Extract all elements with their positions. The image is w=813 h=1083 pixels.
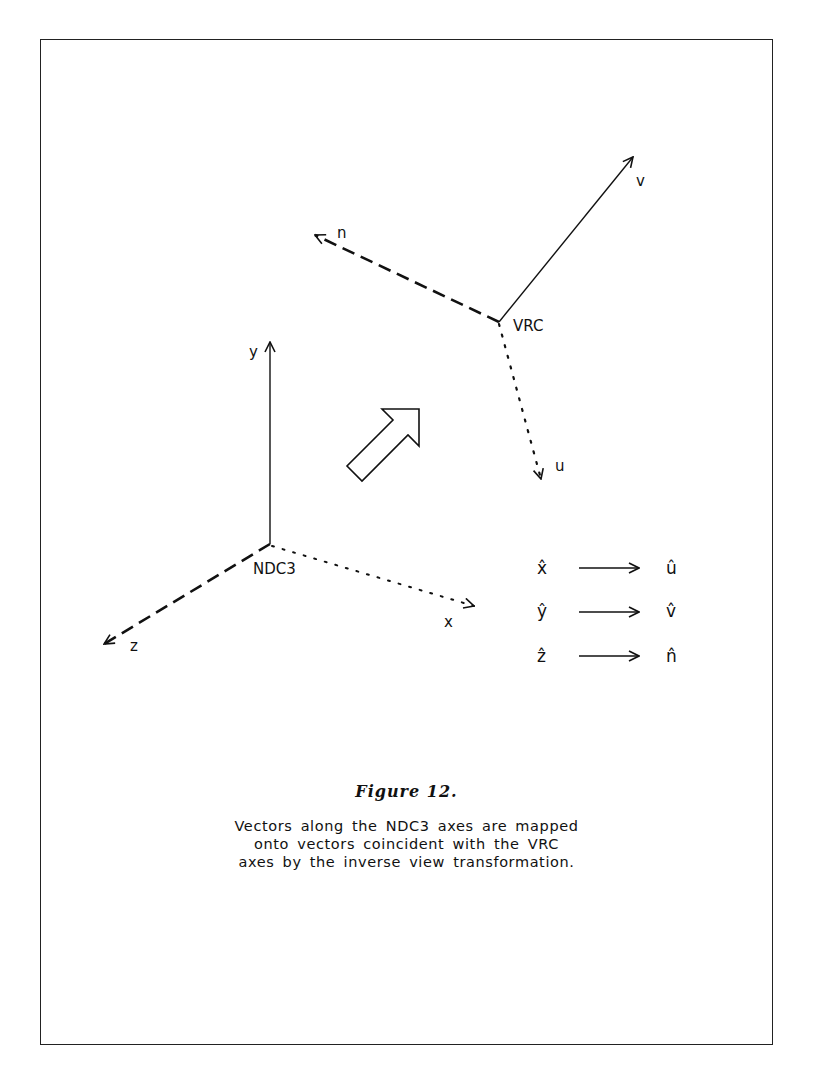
mapping-from-z-hat: ẑ — [537, 646, 546, 666]
mapping-to-u-hat: û — [666, 558, 677, 578]
mapping-row: ẑ n̂ — [537, 646, 677, 666]
vrc-coordinate-system: v n u VRC — [315, 157, 645, 479]
mapping-row: ŷ v̂ — [537, 601, 676, 621]
n-axis-label: n — [337, 224, 347, 242]
x-axis-label: x — [444, 613, 453, 631]
vrc-origin-label: VRC — [513, 317, 543, 335]
v-axis — [499, 157, 633, 322]
n-axis — [315, 235, 499, 322]
z-axis-label: z — [130, 637, 138, 655]
caption-line: Vectors along the NDC3 axes are mapped — [40, 817, 773, 835]
caption-line: onto vectors coincident with the VRC — [40, 835, 773, 853]
ndc3-origin-label: NDC3 — [253, 560, 296, 578]
y-axis-label: y — [249, 343, 258, 361]
figure-title: Figure 12. — [40, 782, 773, 801]
z-axis — [104, 544, 270, 644]
u-axis-label: u — [555, 457, 565, 475]
vector-mapping-table: x̂ û ŷ v̂ ẑ n̂ — [537, 558, 677, 666]
ndc3-coordinate-system: y z x NDC3 — [104, 342, 474, 655]
mapping-row: x̂ û — [537, 558, 677, 578]
v-axis-label: v — [636, 172, 645, 190]
figure-description: Vectors along the NDC3 axes are mapped o… — [40, 817, 773, 871]
mapping-from-y-hat: ŷ — [537, 601, 547, 621]
u-axis — [499, 324, 541, 479]
x-axis — [272, 546, 474, 606]
coordinate-diagram: v n u VRC y z x NDC3 x̂ û ŷ v̂ ẑ n̂ — [0, 0, 813, 1083]
mapping-to-n-hat: n̂ — [666, 646, 677, 666]
transform-arrow-icon — [347, 409, 419, 481]
figure-caption: Figure 12. Vectors along the NDC3 axes a… — [40, 782, 773, 871]
mapping-from-x-hat: x̂ — [537, 558, 547, 578]
mapping-to-v-hat: v̂ — [666, 601, 676, 621]
caption-line: axes by the inverse view transformation. — [40, 853, 773, 871]
